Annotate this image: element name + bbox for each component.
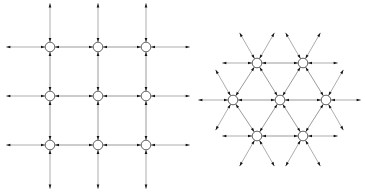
stub-arrowhead-inward bbox=[328, 104, 331, 108]
bond-arrowhead-inward bbox=[262, 135, 266, 138]
lattice-stub bbox=[305, 140, 320, 166]
lattice-bond bbox=[283, 67, 301, 96]
bond-arrowhead-inward bbox=[283, 104, 286, 108]
lattice-node bbox=[252, 58, 262, 68]
stub-arrowhead-outward bbox=[49, 3, 52, 7]
lattice-bond bbox=[236, 104, 255, 132]
bond-arrowhead-inward bbox=[55, 144, 59, 147]
stub-arrowhead-inward bbox=[328, 92, 331, 96]
stub-arrowhead-outward bbox=[6, 46, 10, 49]
stub-arrowhead-inward bbox=[41, 144, 45, 147]
stub-arrowhead-outward bbox=[286, 162, 289, 166]
lattice-node bbox=[93, 140, 103, 150]
bond-arrowhead-inward bbox=[97, 136, 100, 140]
lattice-stub bbox=[305, 33, 320, 59]
stub-arrowhead-inward bbox=[151, 144, 155, 147]
lattice-node bbox=[141, 42, 151, 52]
stub-arrowhead-outward bbox=[271, 162, 274, 166]
stub-arrowhead-outward bbox=[317, 33, 320, 37]
lattice-stub bbox=[240, 140, 255, 166]
stub-arrowhead-outward bbox=[340, 70, 343, 74]
stub-arrowhead-inward bbox=[251, 140, 254, 144]
bond-arrowhead-inward bbox=[251, 67, 254, 71]
lattice-stub bbox=[328, 104, 343, 130]
lattice-node bbox=[45, 42, 55, 52]
stub-arrowhead-inward bbox=[227, 104, 230, 108]
lattice-bond bbox=[260, 104, 278, 132]
stub-arrowhead-outward bbox=[49, 185, 52, 189]
bond-arrowhead-inward bbox=[260, 67, 263, 71]
bond-arrowhead-inward bbox=[236, 104, 239, 108]
stub-arrowhead-outward bbox=[186, 95, 190, 98]
stub-arrowhead-inward bbox=[308, 62, 312, 65]
lattice-node bbox=[275, 95, 285, 105]
bond-arrowhead-inward bbox=[97, 101, 100, 105]
lattice-bond bbox=[306, 67, 324, 96]
bond-arrowhead-inward bbox=[260, 128, 263, 132]
bond-arrowhead-inward bbox=[49, 136, 52, 140]
stub-arrowhead-outward bbox=[6, 144, 10, 147]
stub-arrowhead-inward bbox=[248, 135, 252, 138]
stub-arrowhead-inward bbox=[41, 46, 45, 49]
lattice-stub bbox=[216, 70, 231, 96]
lattice-node bbox=[93, 42, 103, 52]
bond-arrowhead-inward bbox=[262, 62, 266, 65]
stub-arrowhead-inward bbox=[97, 38, 100, 42]
stub-arrowhead-outward bbox=[240, 33, 243, 37]
lattice-stub bbox=[328, 70, 343, 96]
lattice-node bbox=[141, 91, 151, 101]
stub-arrowhead-outward bbox=[186, 46, 190, 49]
stub-arrowhead-inward bbox=[151, 46, 155, 49]
bond-arrowhead-inward bbox=[294, 135, 298, 138]
bond-arrowhead-inward bbox=[145, 101, 148, 105]
bond-arrowhead-inward bbox=[89, 144, 93, 147]
stub-arrowhead-inward bbox=[248, 62, 252, 65]
bond-arrowhead-inward bbox=[103, 46, 107, 49]
stub-arrowhead-outward bbox=[216, 70, 219, 74]
lattice-node bbox=[228, 95, 238, 105]
lattice-stub bbox=[286, 140, 301, 166]
stub-arrowhead-outward bbox=[334, 135, 338, 138]
bond-arrowhead-inward bbox=[145, 52, 148, 56]
stub-arrowhead-inward bbox=[251, 55, 254, 59]
lattice-node bbox=[141, 140, 151, 150]
stub-arrowhead-inward bbox=[145, 38, 148, 42]
bond-arrowhead-inward bbox=[306, 128, 309, 132]
bond-arrowhead-inward bbox=[274, 92, 277, 96]
bond-arrowhead-inward bbox=[89, 95, 93, 98]
bond-arrowhead-inward bbox=[297, 128, 300, 132]
stub-arrowhead-outward bbox=[222, 135, 226, 138]
stub-arrowhead-inward bbox=[151, 95, 155, 98]
bond-arrowhead-inward bbox=[145, 136, 148, 140]
stub-arrowhead-outward bbox=[145, 3, 148, 7]
stub-arrowhead-inward bbox=[305, 140, 308, 144]
bond-arrowhead-inward bbox=[238, 99, 242, 102]
stub-arrowhead-inward bbox=[297, 55, 300, 59]
stub-arrowhead-inward bbox=[259, 55, 262, 59]
bond-arrowhead-inward bbox=[297, 67, 300, 71]
bond-arrowhead-inward bbox=[97, 52, 100, 56]
stub-arrowhead-outward bbox=[286, 33, 289, 37]
stub-arrowhead-outward bbox=[240, 162, 243, 166]
bond-arrowhead-inward bbox=[145, 87, 148, 91]
lattice-stub bbox=[216, 104, 231, 130]
bond-arrowhead-inward bbox=[137, 46, 141, 49]
stub-arrowhead-inward bbox=[308, 135, 312, 138]
stub-arrowhead-outward bbox=[271, 33, 274, 37]
stub-arrowhead-inward bbox=[49, 38, 52, 42]
bond-arrowhead-inward bbox=[294, 62, 298, 65]
stub-arrowhead-inward bbox=[297, 140, 300, 144]
stub-arrowhead-inward bbox=[305, 55, 308, 59]
lattice-node bbox=[298, 58, 308, 68]
bond-arrowhead-inward bbox=[55, 46, 59, 49]
bond-arrowhead-inward bbox=[137, 95, 141, 98]
bond-arrowhead-inward bbox=[251, 128, 254, 132]
bond-arrowhead-inward bbox=[103, 144, 107, 147]
bond-arrowhead-inward bbox=[320, 92, 323, 96]
stub-arrowhead-inward bbox=[331, 99, 335, 102]
lattice-stub bbox=[259, 140, 274, 166]
stub-arrowhead-outward bbox=[340, 126, 343, 130]
stub-arrowhead-outward bbox=[198, 99, 202, 102]
bond-arrowhead-inward bbox=[283, 92, 286, 96]
bond-arrowhead-inward bbox=[89, 46, 93, 49]
